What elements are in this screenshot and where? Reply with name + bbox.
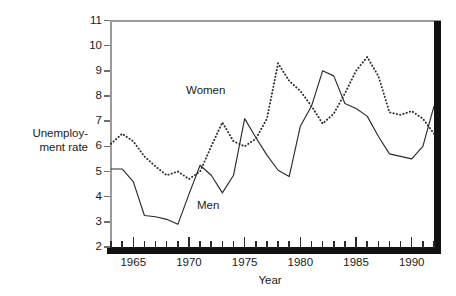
x-axis-title-text: Year — [258, 274, 281, 286]
data-series-group — [0, 0, 456, 296]
scan-artifact-caption — [0, 288, 456, 296]
unemployment-rate-chart-figure: Unemploy- ment rate 234567891011 1965197… — [0, 0, 456, 296]
x-axis-title: Year — [0, 274, 456, 286]
series-label-men: Men — [197, 199, 219, 211]
series-line-women — [111, 57, 434, 179]
series-label-women: Women — [186, 84, 225, 96]
